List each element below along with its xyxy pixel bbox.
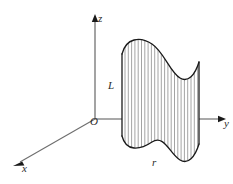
figure-canvas: z y x O L r: [0, 0, 233, 184]
generatrix-label-L: L: [108, 80, 114, 91]
origin-label: O: [90, 116, 98, 127]
z-axis-label: z: [98, 13, 102, 24]
y-axis-label: y: [224, 118, 229, 129]
x-axis-label: x: [22, 163, 27, 174]
directrix-label-r: r: [152, 157, 156, 168]
x-axis-line: [20, 119, 95, 162]
diagram-svg: [0, 0, 233, 184]
